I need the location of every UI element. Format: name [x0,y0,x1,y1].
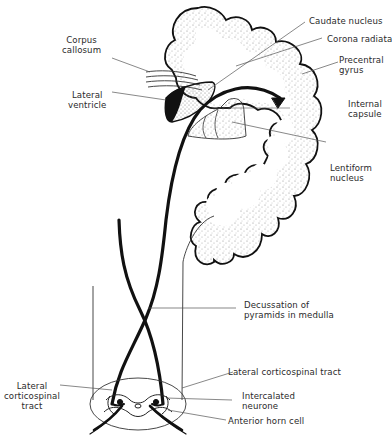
label-lateral-corticospinal-tract-left: Lateral corticospinal tract [4,381,60,411]
label-anterior-horn-cell: Anterior horn cell [228,416,304,426]
label-caudate-nucleus: Caudate nucleus [309,16,383,26]
label-precentral-gyrus: Precentral gyrus [339,55,384,75]
label-decussation-of-pyramids: Decussation of pyramids in medulla [244,300,334,320]
label-internal-capsule: Internal capsule [348,99,382,119]
label-intercalated-neurone: Intercalated neurone [242,391,295,411]
label-lateral-ventricle: Lateral ventricle [68,90,106,110]
label-corona-radiata: Corona radiata [327,34,392,44]
label-lateral-corticospinal-tract-right: Lateral corticospinal tract [228,367,341,377]
label-lentiform-nucleus: Lentiform nucleus [330,163,372,183]
label-corpus-callosum: Corpus callosum [62,35,101,55]
